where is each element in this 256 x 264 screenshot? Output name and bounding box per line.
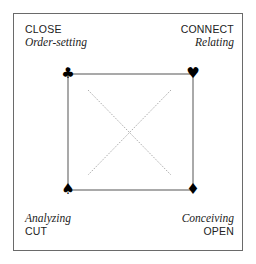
diagonal-line	[88, 90, 171, 175]
heart-icon: ♥	[185, 66, 201, 81]
club-icon: ♣	[60, 66, 76, 81]
diamond-icon: ♦	[185, 182, 201, 197]
square-diagram	[0, 0, 256, 264]
spade-icon: ♠	[60, 182, 76, 197]
diagonal-line	[88, 90, 171, 175]
